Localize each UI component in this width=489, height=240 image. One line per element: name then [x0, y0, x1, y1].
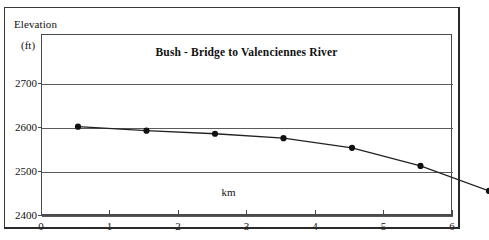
x-axis-tick-mark [41, 210, 42, 216]
data-point [417, 163, 423, 169]
y-axis-units-label: (ft) [21, 39, 35, 52]
data-point [212, 131, 218, 137]
chart-figure-border: Elevation (ft) 2400250026002700 Bush - B… [4, 7, 459, 228]
x-axis-tick-label: 5 [373, 220, 395, 232]
x-axis-tick-label: 1 [99, 220, 121, 232]
x-axis-tick-mark [315, 210, 316, 216]
x-axis-tick-mark [383, 210, 384, 216]
x-axis-tick-mark [178, 210, 179, 216]
data-point [349, 145, 355, 151]
y-axis-tick-label: 2600 [5, 121, 37, 133]
x-axis-tick-label: 6 [441, 220, 463, 232]
x-axis-tick-label: 2 [167, 220, 189, 232]
x-axis-tick-label: 0 [30, 220, 52, 232]
data-point [75, 124, 81, 130]
y-axis-tick-label: 2700 [5, 77, 37, 89]
x-axis-tick-label: 3 [236, 220, 258, 232]
data-point [280, 135, 286, 141]
chart-title: Bush - Bridge to Valenciennes River [42, 46, 451, 58]
elevation-series [78, 61, 489, 240]
x-axis-tick-mark [246, 210, 247, 216]
x-axis-tick-mark [109, 210, 110, 216]
x-axis-tick-mark [452, 210, 453, 216]
x-axis-tick-label: 4 [304, 220, 326, 232]
y-axis-tick-label: 2500 [5, 165, 37, 177]
x-axis-title: km [5, 186, 452, 199]
data-point [143, 128, 149, 134]
y-axis-title: Elevation [14, 18, 57, 31]
